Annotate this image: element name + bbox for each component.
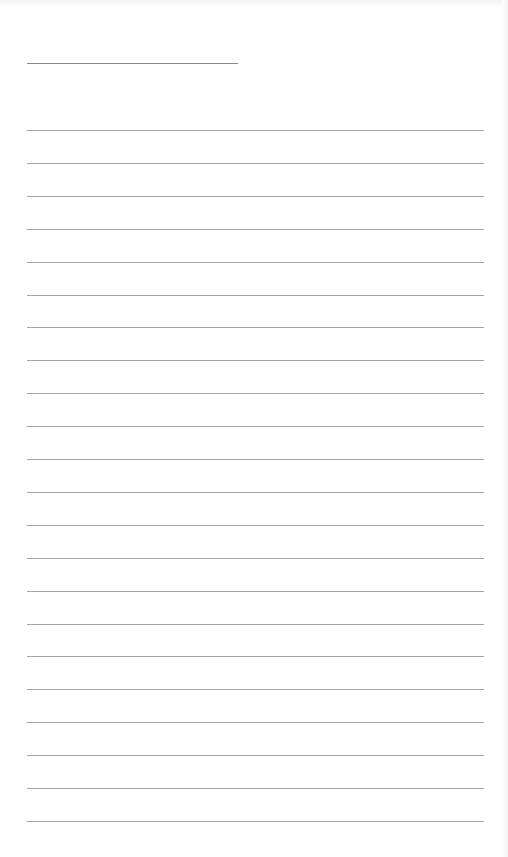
- ruled-line: [27, 525, 484, 526]
- ruled-line: [27, 295, 484, 296]
- ruled-line: [27, 393, 484, 394]
- ruled-line: [27, 821, 484, 822]
- ruled-line: [27, 492, 484, 493]
- ruled-line: [27, 130, 484, 131]
- ruled-line: [27, 755, 484, 756]
- ruled-line: [27, 229, 484, 230]
- ruled-line: [27, 360, 484, 361]
- top-edge-shading: [0, 0, 508, 8]
- ruled-line: [27, 558, 484, 559]
- ruled-line: [27, 459, 484, 460]
- ruled-line: [27, 426, 484, 427]
- ruled-line: [27, 788, 484, 789]
- ruled-line: [27, 163, 484, 164]
- ruled-line: [27, 624, 484, 625]
- ruled-line: [27, 591, 484, 592]
- ruled-line: [27, 327, 484, 328]
- ruled-line: [27, 262, 484, 263]
- ruled-line: [27, 689, 484, 690]
- title-line: [27, 63, 238, 64]
- right-edge-shading: [502, 0, 508, 857]
- ruled-line: [27, 196, 484, 197]
- ruled-line: [27, 656, 484, 657]
- ruled-line: [27, 722, 484, 723]
